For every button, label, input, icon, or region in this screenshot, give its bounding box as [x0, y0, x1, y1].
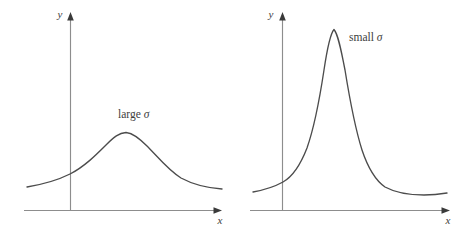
left-x-axis-label: x: [217, 214, 223, 226]
figure-root: y x large σ y x: [0, 0, 463, 229]
large-sigma-annotation-symbol: σ: [144, 108, 151, 120]
right-y-axis-arrowhead: [279, 12, 286, 21]
right-y-axis-label: y: [268, 8, 274, 20]
left-y-axis-label: y: [57, 8, 63, 20]
right-x-axis-arrowhead: [442, 207, 451, 214]
large-sigma-annotation-text: large: [118, 108, 144, 121]
small-sigma-panel: y x small σ: [250, 8, 451, 226]
small-sigma-annotation: small σ: [349, 31, 384, 43]
large-sigma-curve: [27, 133, 222, 190]
small-sigma-annotation-text: small: [349, 31, 377, 43]
large-sigma-annotation: large σ: [118, 108, 151, 121]
left-x-axis-arrowhead: [214, 207, 223, 214]
left-y-axis-arrowhead: [67, 12, 74, 21]
small-sigma-annotation-symbol: σ: [377, 31, 384, 43]
distribution-comparison-figure: y x large σ y x: [0, 0, 463, 229]
right-x-axis-label: x: [445, 214, 451, 226]
large-sigma-panel: y x large σ: [24, 8, 223, 226]
